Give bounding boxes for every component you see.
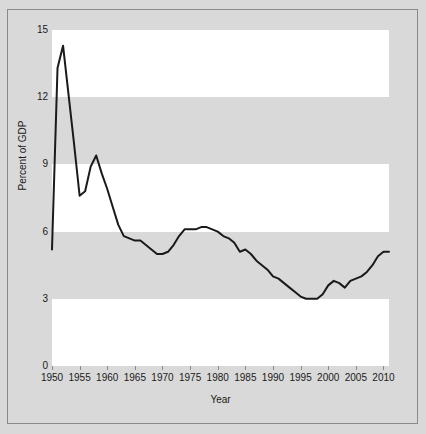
y-axis-tick-label: 3 (26, 294, 48, 304)
x-axis-tick-mark (80, 366, 81, 370)
y-axis-tick-label: 9 (26, 159, 48, 169)
x-axis-tick-mark (356, 366, 357, 370)
x-axis-tick-mark (328, 366, 329, 370)
plot-area (52, 30, 389, 366)
x-axis-tick-mark (218, 366, 219, 370)
x-axis-tick-label: 2010 (363, 372, 403, 383)
x-axis-tick-mark (52, 366, 53, 370)
x-axis-tick-mark (301, 366, 302, 370)
x-axis-tick-mark (273, 366, 274, 370)
chart-figure: 03691215 1950195519601965197019751980198… (0, 0, 426, 434)
x-axis-tick-mark (383, 366, 384, 370)
y-axis-tick-label: 6 (26, 227, 48, 237)
x-axis-tick-mark (190, 366, 191, 370)
x-axis-tick-mark (162, 366, 163, 370)
series-line-percent-of-gdp (52, 46, 389, 299)
y-axis-tick-label: 0 (26, 361, 48, 371)
line-series-svg (52, 30, 389, 366)
x-axis-tick-mark (245, 366, 246, 370)
y-axis-tick-label: 12 (26, 92, 48, 102)
x-axis-title: Year (52, 394, 389, 405)
x-axis-ticks: 1950195519601965197019751980198519901995… (52, 366, 389, 392)
y-axis-tick-label: 15 (26, 25, 48, 35)
x-axis-tick-mark (107, 366, 108, 370)
x-axis-tick-mark (135, 366, 136, 370)
y-axis-title: Percent of GDP (17, 96, 28, 216)
